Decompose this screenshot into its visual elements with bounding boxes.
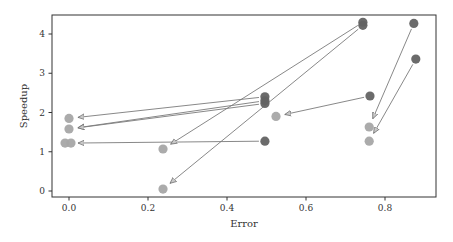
target-point xyxy=(365,122,374,131)
y-axis-label: Speedup xyxy=(18,84,29,128)
target-point xyxy=(365,137,374,146)
source-point xyxy=(260,99,269,108)
transition-arrow xyxy=(373,29,412,119)
source-point xyxy=(411,55,420,64)
transition-arrow xyxy=(78,141,259,143)
target-point xyxy=(66,139,75,148)
x-tick-label: 0.2 xyxy=(141,203,155,213)
y-tick-label: 4 xyxy=(39,29,45,39)
source-point xyxy=(365,91,374,100)
y-tick-label: 3 xyxy=(39,68,45,78)
y-axis-ticks: 01234 xyxy=(39,29,52,196)
target-point xyxy=(158,144,167,153)
x-tick-label: 0.6 xyxy=(299,203,314,213)
y-tick-label: 0 xyxy=(39,186,45,196)
x-tick-label: 0.0 xyxy=(62,203,77,213)
target-point xyxy=(64,114,73,123)
source-point xyxy=(409,19,418,28)
x-axis-label: Error xyxy=(230,218,258,229)
x-axis-ticks: 0.00.20.40.60.8 xyxy=(62,197,393,213)
transition-arrow xyxy=(374,64,413,133)
arrows-layer xyxy=(78,25,413,183)
y-tick-label: 2 xyxy=(39,108,45,118)
source-point xyxy=(358,21,367,30)
x-tick-label: 0.8 xyxy=(378,203,393,213)
x-tick-label: 0.4 xyxy=(220,203,235,213)
target-point xyxy=(158,184,167,193)
y-tick-label: 1 xyxy=(39,147,45,157)
scatter-chart: 0.00.20.40.60.8 01234 Error Speedup xyxy=(0,0,453,242)
points-layer xyxy=(60,18,420,194)
axes: 0.00.20.40.60.8 01234 Error Speedup xyxy=(18,15,436,229)
target-point xyxy=(271,112,280,121)
transition-arrow xyxy=(171,25,358,144)
transition-arrow xyxy=(285,97,364,114)
source-point xyxy=(260,137,269,146)
target-point xyxy=(64,124,73,133)
